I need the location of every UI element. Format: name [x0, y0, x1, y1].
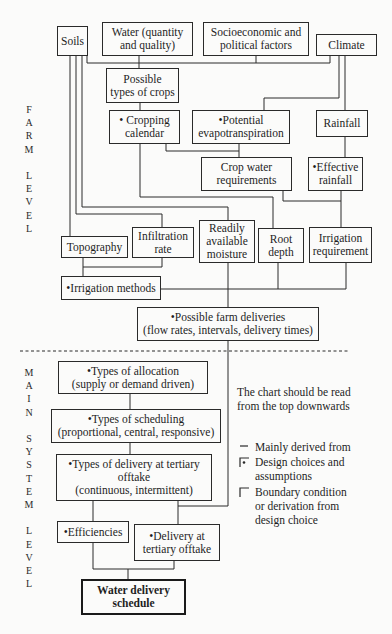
diagram-canvas: F A R M L E V E L M A I N S Y S T E M L …	[0, 0, 392, 634]
legend-item-design-choices: Design choices and assumptions	[237, 455, 344, 483]
legend-item-derived: Mainly derived from	[237, 440, 351, 454]
legend-label: Boundary condition or derivation from de…	[255, 485, 347, 527]
box-irrigation-methods: •Irrigation methods	[61, 276, 161, 300]
box-root-depth: Root depth	[258, 228, 304, 263]
line-icon	[237, 440, 253, 454]
box-soils: Soils	[57, 26, 88, 56]
box-effective-rainfall: •Effective rainfall	[308, 157, 363, 191]
box-cropping-calendar: • Cropping calendar	[109, 110, 180, 144]
box-potential-evapotranspiration: •Potential evapotranspiration	[192, 110, 290, 144]
legend-label: Design choices and assumptions	[255, 455, 344, 483]
box-irrigation-requirement: Irrigation requirement	[309, 227, 372, 263]
main-system-level-label: M A I N S Y S T E M L E V E L	[21, 366, 37, 590]
box-water-delivery-schedule: Water delivery schedule	[81, 579, 186, 615]
dot-corner-icon	[237, 455, 253, 469]
box-possible-farm-deliveries: •Possible farm deliveries (flow rates, i…	[137, 307, 319, 341]
legend-label: Mainly derived from	[255, 440, 351, 454]
box-types-of-allocation: •Types of allocation (supply or demand d…	[58, 361, 208, 394]
box-crop-water-requirements: Crop water requirements	[201, 157, 292, 191]
box-infiltration-rate: Infiltration rate	[132, 227, 194, 258]
box-readily-available-moisture: Readily available moisture	[199, 220, 255, 263]
legend-item-boundary-condition: Boundary condition or derivation from de…	[237, 485, 347, 527]
box-types-of-delivery: •Types of delivery at tertiary offtake (…	[56, 454, 212, 501]
box-socioeconomic: Socioeconomic and political factors	[203, 22, 309, 56]
farm-level-label: F A R M L E V E L	[21, 103, 37, 235]
box-efficiencies: •Efficiencies	[57, 521, 129, 543]
box-possible-crops: Possible types of crops	[106, 68, 179, 103]
reading-note: The chart should be read from the top do…	[237, 385, 387, 413]
box-topography: Topography	[61, 236, 128, 258]
box-climate: Climate	[316, 34, 377, 56]
box-delivery-at-tertiary-offtake: •Delivery at tertiary offtake	[134, 524, 220, 561]
box-types-of-scheduling: •Types of scheduling (proportional, cent…	[51, 409, 221, 443]
box-rainfall: Rainfall	[316, 110, 368, 137]
box-water: Water (quantity and quality)	[102, 22, 193, 56]
corner-icon	[237, 485, 253, 499]
